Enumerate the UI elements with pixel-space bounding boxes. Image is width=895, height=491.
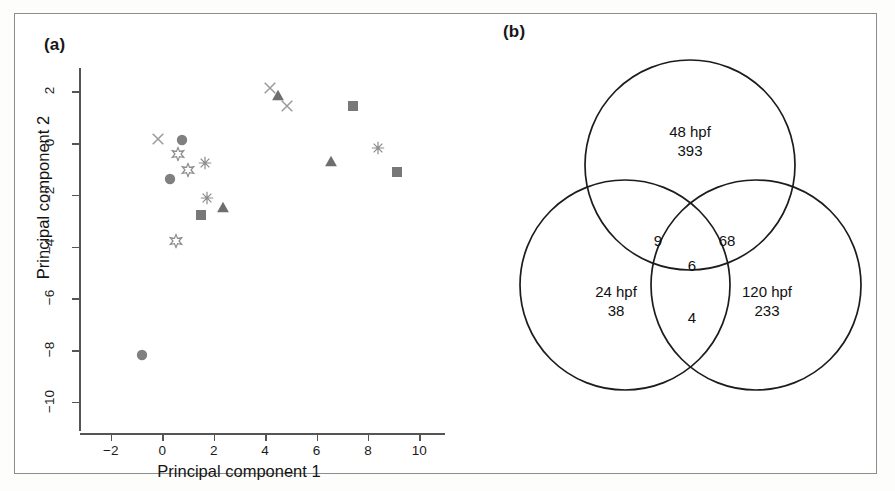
scatter-point-star[interactable] bbox=[169, 233, 184, 252]
venn-region-24hpf: 24 hpf 38 bbox=[595, 282, 637, 320]
y-axis-title: Principal component 2 bbox=[34, 73, 53, 323]
y-tick bbox=[72, 91, 79, 93]
x-tick bbox=[111, 434, 113, 441]
venn-label-24hpf: 24 hpf bbox=[595, 282, 637, 301]
venn-value-48hpf: 393 bbox=[669, 141, 711, 160]
scatter-point-square[interactable] bbox=[390, 165, 404, 183]
x-tick-label: 6 bbox=[302, 443, 332, 458]
x-tick bbox=[419, 434, 421, 441]
x-tick-label: 2 bbox=[199, 443, 229, 458]
figure-container: (a) 20−2−4−6−8−10 −20246810 Principal co… bbox=[0, 0, 895, 491]
x-tick bbox=[214, 434, 216, 441]
y-tick bbox=[72, 402, 79, 404]
venn-label-48hpf: 48 hpf bbox=[669, 122, 711, 141]
venn-region-48-120-overlap: 68 bbox=[719, 231, 736, 250]
x-axis-title: Principal component 1 bbox=[74, 462, 404, 481]
y-tick-label: −8 bbox=[42, 333, 57, 367]
x-tick-label: 0 bbox=[147, 443, 177, 458]
y-axis-line bbox=[79, 68, 81, 431]
venn-value-24hpf: 38 bbox=[595, 301, 637, 320]
venn-region-48hpf: 48 hpf 393 bbox=[669, 122, 711, 160]
x-tick bbox=[368, 434, 370, 441]
scatter-point-triangle[interactable] bbox=[215, 200, 230, 218]
scatter-point-asterisk[interactable] bbox=[371, 140, 386, 159]
y-tick bbox=[72, 350, 79, 352]
x-tick bbox=[265, 434, 267, 441]
scatter-point-triangle[interactable] bbox=[323, 154, 338, 172]
y-tick-label: −10 bbox=[42, 384, 57, 418]
panel-b-venn: (b) 48 hpf 393 24 hpf 38 120 hpf 233 9 6… bbox=[464, 13, 877, 474]
y-tick bbox=[72, 143, 79, 145]
venn-label-120hpf: 120 hpf bbox=[742, 282, 792, 301]
venn-circle-48hpf[interactable] bbox=[585, 60, 795, 270]
panel-a-label: (a) bbox=[44, 35, 65, 55]
venn-region-triple-overlap: 6 bbox=[688, 256, 696, 275]
venn-region-24-120-overlap: 4 bbox=[688, 308, 696, 327]
panel-a-scatter: (a) 20−2−4−6−8−10 −20246810 Principal co… bbox=[14, 13, 464, 474]
scatter-point-star[interactable] bbox=[181, 163, 196, 182]
venn-region-24-48-overlap: 9 bbox=[654, 231, 662, 250]
venn-diagram-svg bbox=[464, 13, 877, 474]
x-tick bbox=[162, 434, 164, 441]
y-tick bbox=[72, 247, 79, 249]
x-tick bbox=[317, 434, 319, 441]
scatter-point-asterisk[interactable] bbox=[200, 191, 215, 210]
y-tick bbox=[72, 195, 79, 197]
scatter-point-asterisk[interactable] bbox=[197, 156, 212, 175]
scatter-point-triangle[interactable] bbox=[270, 88, 285, 106]
x-axis-line bbox=[80, 433, 445, 435]
scatter-point-square[interactable] bbox=[346, 99, 360, 117]
x-tick-label: 8 bbox=[353, 443, 383, 458]
scatter-point-circle[interactable] bbox=[135, 348, 149, 366]
venn-value-120hpf: 233 bbox=[742, 301, 792, 320]
x-tick-label: −2 bbox=[96, 443, 126, 458]
scatter-point-cross[interactable] bbox=[151, 131, 166, 150]
y-tick bbox=[72, 298, 79, 300]
scatter-point-circle[interactable] bbox=[163, 172, 177, 190]
venn-region-120hpf: 120 hpf 233 bbox=[742, 282, 792, 320]
x-tick-label: 10 bbox=[404, 443, 434, 458]
x-tick-label: 4 bbox=[250, 443, 280, 458]
scatter-point-square[interactable] bbox=[194, 208, 208, 226]
